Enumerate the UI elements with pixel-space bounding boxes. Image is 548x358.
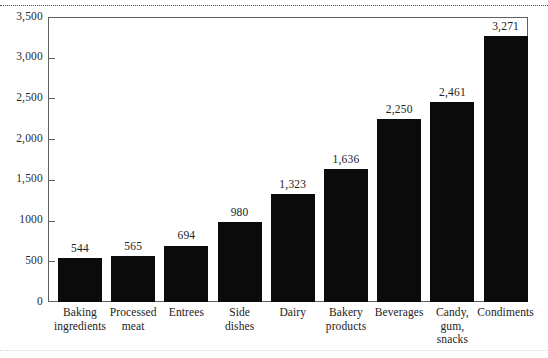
- bar-value-label: 1,323: [263, 178, 323, 190]
- category-label-line: meat: [101, 320, 165, 334]
- bar-value-label: 2,250: [369, 103, 429, 115]
- bar-chart-figure: 050010001,5002,0002,5003,0003,500 544Bak…: [0, 0, 548, 358]
- x-axis-category-label: Condiments: [474, 306, 538, 320]
- y-axis-tick-label: 2,500: [0, 91, 43, 103]
- category-label-line: Condiments: [474, 306, 538, 320]
- category-label-line: dishes: [208, 320, 272, 334]
- bar-value-label: 565: [103, 240, 163, 252]
- bar-value-label: 2,461: [422, 86, 482, 98]
- y-axis-tick-label: 3,000: [0, 50, 43, 62]
- y-axis-tick-label: 1000: [0, 213, 43, 225]
- bar[interactable]: [111, 256, 155, 302]
- bar[interactable]: [58, 258, 102, 302]
- top-dotted-rule: [0, 5, 548, 6]
- bar[interactable]: [377, 119, 421, 302]
- bar[interactable]: [271, 194, 315, 302]
- bar-value-label: 1,636: [316, 153, 376, 165]
- bar-value-label: 544: [50, 242, 110, 254]
- bar[interactable]: [484, 36, 528, 302]
- bar-value-label: 694: [156, 229, 216, 241]
- y-axis-tick-label: 500: [0, 254, 43, 266]
- bar-value-label: 980: [210, 206, 270, 218]
- bottom-scan-artifact: [0, 350, 548, 351]
- bar[interactable]: [430, 102, 474, 302]
- y-axis-tick-label: 1,500: [0, 172, 43, 184]
- bars-layer: [48, 17, 528, 302]
- category-label-line: gum,: [420, 320, 484, 334]
- bar[interactable]: [218, 222, 262, 302]
- y-axis-tick-label: 3,500: [0, 10, 43, 22]
- bar[interactable]: [324, 169, 368, 302]
- bar-value-label: 3,271: [476, 20, 536, 32]
- bar[interactable]: [164, 246, 208, 303]
- y-axis-tick-label: 2,000: [0, 132, 43, 144]
- y-axis-tick-label: 0: [0, 295, 43, 307]
- category-label-line: products: [314, 320, 378, 334]
- category-label-line: snacks: [420, 333, 484, 347]
